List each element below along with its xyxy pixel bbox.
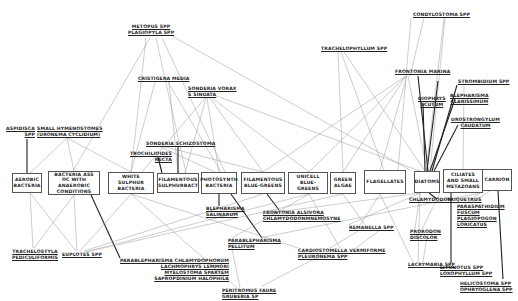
taxon-line: PEDICULIFORMIS (12, 255, 58, 261)
node-ciliates-metazoans: CILIATES AND SMALL METAZOANS (443, 169, 483, 193)
taxon-line: OPHRYOGLENA SPP (460, 287, 513, 293)
taxon-line: RECTA (130, 157, 172, 163)
taxon-line: TRIQUETRUS (447, 197, 481, 203)
node-filamentous-sulphur: FILAMENTOUS SULPHURBACT (157, 173, 199, 193)
taxon-helicostoma: HELICOSTOMA SPP OPHRYOGLENA SPP (460, 281, 513, 293)
taxon-line: SALINARUM (206, 212, 245, 218)
taxon-remanella: REMANELLA SPP (349, 225, 394, 231)
taxon-diophrys: DIOPHRYS SCUTUM (418, 96, 446, 108)
taxon-strombidium: STROMBIDIUM SPP (458, 79, 509, 85)
taxon-trachelophyllum: TRACHELOPHYLLUM SPP (321, 46, 387, 52)
taxon-parablepharisma-pellitum: PARABLEPHARISMA PELLITUM (228, 238, 281, 250)
taxon-line: STROMBIDIUM SPP (458, 79, 509, 85)
taxon-line: PELLITUM (228, 244, 281, 250)
taxon-line: PLEURONEMA SPP (298, 254, 386, 260)
taxon-frontonia-alsivora: FRONTONIA ALSIVORA CHLAMYDODONMNEMOSYNE (263, 210, 341, 222)
node-photosynth-bacteria: PHOTOSYNTH BACTERIA (201, 172, 237, 194)
node-diatoms: DIATOMS (414, 171, 440, 193)
taxon-trochilioides: TROCHILIOIDES RECTA (130, 151, 172, 163)
taxon-line: CRISTIGERA MEDIA (138, 76, 190, 82)
taxon-triquetrus: TRIQUETRUS (447, 197, 481, 203)
taxon-urostrongylum: UROSTRONGYLUM CAUDATUM (451, 117, 500, 129)
node-carrion: CARRION (482, 169, 512, 191)
taxon-parablepharisma-chlamydophorum: PARABLEPHARISMA CHLAMYDOPHORUM LACHMOPHR… (120, 258, 229, 282)
taxon-line: PLAGIOPYLA SPP (128, 30, 174, 36)
taxon-line: REMANELLA SPP (349, 225, 394, 231)
taxon-condylostoma: CONDYLOSTOMA SPP (413, 12, 470, 18)
taxon-line: S SINUATA (188, 92, 237, 98)
taxon-line: (URONEMA CYCLIDIUM) (37, 132, 103, 138)
taxon-euplotes: EUPLOTES SPP (62, 252, 102, 258)
taxon-line: CLARISSIMUM (450, 99, 489, 105)
taxon-blepharisma-clarissimum: BLEPHARISMA CLARISSIMUM (450, 93, 489, 105)
taxon-blepharisma-salinarum: BLEPHARISMA SALINARUM (206, 206, 245, 218)
taxon-line: CHLAMYDODON (409, 197, 452, 203)
taxon-line: GRUBERIA SP (222, 294, 276, 300)
taxon-line: TRACHELOPHYLLUM SPP (321, 46, 387, 52)
taxon-metopus: METOPUS SPP PLAGIOPYLA SPP (128, 24, 174, 36)
node-aerobic-bacteria: AEROBIC BACTERIA (12, 173, 42, 193)
taxon-small-hymenostomes: SMALL HYMENOSTOMES (URONEMA CYCLIDIUM) (37, 126, 103, 138)
taxon-peritromus: PERITROMUS FAURE GRUBERIA SP (222, 288, 276, 300)
taxon-trachelostyla: TRACHELOSTYLA PEDICULIFORMIS (12, 249, 58, 261)
taxon-cardiostomella: CARDIOSTOMELLA VERMIFORME PLEURONEMA SPP (298, 248, 386, 260)
taxon-line: SCUTUM (418, 102, 446, 108)
taxon-line: SAPROPDINIUM HALOPHILA (120, 276, 229, 282)
taxon-cristigera: CRISTIGERA MEDIA (138, 76, 190, 82)
node-white-sulphur-bacteria: WHITE SULPHUR BACTERIA (108, 172, 154, 194)
taxon-paraspathidium: PARASPATHIDIUM FUSCUM PLAGIOPOGON LORICA… (457, 204, 505, 228)
taxon-line: LOXOPHYLLUM SPP (440, 271, 492, 277)
taxon-sonderia-vorax: SONDERIA VORAX S SINUATA (188, 86, 237, 98)
node-flagellates: FLAGELLATES (364, 170, 406, 194)
taxon-line: CONDYLOSTOMA SPP (413, 12, 470, 18)
taxon-sonderia-schizostoma: SONDERIA SCHIZOSTOMA (146, 141, 215, 147)
node-unicell-blue-greens: UNICELL BLUE-GREENS (288, 172, 328, 194)
taxon-chlamydodon: CHLAMYDODON (409, 197, 452, 203)
taxon-line: EUPLOTES SPP (62, 252, 102, 258)
taxon-line: CHLAMYDODONMNEMOSYNE (263, 216, 341, 222)
taxon-line: LORICATUS (457, 222, 505, 228)
node-green-algae: GREEN ALGAE (330, 172, 356, 194)
taxon-prorodon: PRORODON DISCOLOR (410, 229, 441, 241)
taxon-line: FRONTONIA MARINA (395, 69, 450, 75)
taxon-line: LACRYMARIA SPP (408, 262, 455, 268)
node-anaerobic-bacteria: BACTERIA ASS OC WITH ANAEROBIC CONDITION… (48, 171, 100, 195)
taxon-line: CAUDATUM (451, 123, 500, 129)
taxon-frontonia-marina: FRONTONIA MARINA (395, 69, 450, 75)
taxon-aspidisca: ASPIDISCA SPP (6, 126, 35, 138)
node-filamentous-blue-greens: FILAMENTOUS BLUE-GREENS (241, 172, 285, 194)
taxon-lacrymaria: LACRYMARIA SPP (408, 262, 455, 268)
taxon-line: SPP (6, 132, 35, 138)
taxon-line: SONDERIA SCHIZOSTOMA (146, 141, 215, 147)
taxon-line: DISCOLOR (410, 235, 441, 241)
